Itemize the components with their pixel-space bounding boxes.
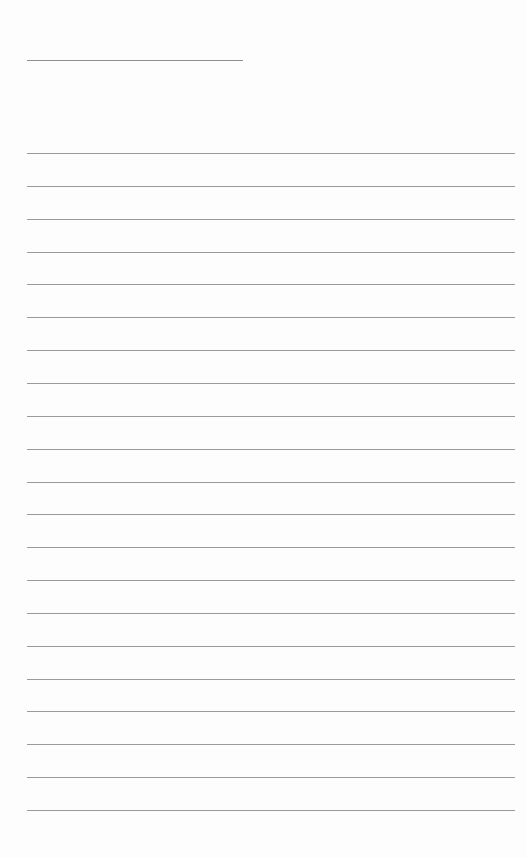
ruled-line: [27, 153, 515, 154]
ruled-line: [27, 580, 515, 581]
ruled-line: [27, 252, 515, 253]
ruled-line: [27, 482, 515, 483]
ruled-line: [27, 284, 515, 285]
ruled-line: [27, 613, 515, 614]
ruled-line: [27, 317, 515, 318]
ruled-line: [27, 449, 515, 450]
ruled-line: [27, 679, 515, 680]
ruled-line: [27, 186, 515, 187]
ruled-line: [27, 646, 515, 647]
ruled-line: [27, 350, 515, 351]
ruled-line: [27, 810, 515, 811]
ruled-line: [27, 711, 515, 712]
ruled-line: [27, 514, 515, 515]
title-line: [27, 60, 243, 61]
ruled-line: [27, 219, 515, 220]
ruled-line: [27, 547, 515, 548]
ruled-line: [27, 416, 515, 417]
ruled-line: [27, 777, 515, 778]
ruled-line: [27, 744, 515, 745]
ruled-line: [27, 383, 515, 384]
lined-page: [0, 0, 527, 858]
